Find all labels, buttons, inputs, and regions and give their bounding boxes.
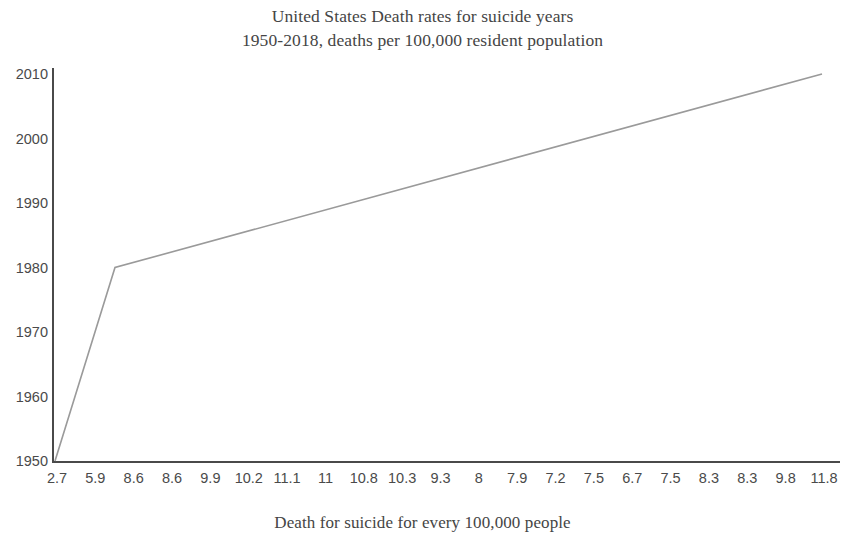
y-axis-tick-1980: 1980 [4, 260, 48, 276]
x-axis-tick-18: 8.3 [737, 470, 757, 486]
x-axis-tick-16: 7.5 [661, 470, 681, 486]
x-axis-tick-5: 10.2 [235, 470, 263, 486]
chart-title-line-2: 1950-2018, deaths per 100,000 resident p… [0, 28, 845, 52]
y-axis-line [52, 68, 54, 462]
chart-container: United States Death rates for suicide ye… [0, 0, 845, 543]
x-axis-tick-0: 2.7 [47, 470, 67, 486]
series-polyline [55, 74, 822, 461]
x-axis-tick-13: 7.2 [545, 470, 565, 486]
x-axis-tick-10: 9.3 [430, 470, 450, 486]
x-axis-tick-14: 7.5 [584, 470, 604, 486]
x-axis-title: Death for suicide for every 100,000 peop… [0, 513, 845, 533]
x-axis-tick-4: 9.9 [200, 470, 220, 486]
x-axis-tick-20: 11.8 [810, 470, 837, 486]
y-axis-tick-labels: 2010200019901980197019601950 [0, 0, 48, 543]
x-axis-tick-8: 10.8 [350, 470, 378, 486]
x-axis-tick-15: 6.7 [622, 470, 642, 486]
y-axis-tick-1970: 1970 [4, 324, 48, 340]
y-axis-tick-2010: 2010 [4, 66, 48, 82]
x-axis-tick-12: 7.9 [507, 470, 527, 486]
chart-title-line-1: United States Death rates for suicide ye… [272, 6, 574, 26]
x-axis-tick-labels: 2.75.98.68.69.910.211.11110.810.39.387.9… [52, 470, 841, 492]
x-axis-tick-9: 10.3 [388, 470, 416, 486]
y-axis-tick-1950: 1950 [4, 453, 48, 469]
y-axis-tick-1960: 1960 [4, 389, 48, 405]
x-axis-tick-11: 8 [475, 470, 483, 486]
chart-title: United States Death rates for suicide ye… [0, 4, 845, 52]
x-axis-tick-6: 11.1 [274, 470, 301, 486]
x-axis-tick-1: 5.9 [85, 470, 105, 486]
y-axis-tick-1990: 1990 [4, 195, 48, 211]
x-axis-tick-7: 11 [318, 470, 333, 486]
x-axis-tick-19: 9.8 [776, 470, 796, 486]
x-axis-tick-3: 8.6 [162, 470, 182, 486]
x-axis-line [52, 461, 840, 463]
y-axis-tick-2000: 2000 [4, 131, 48, 147]
x-axis-tick-17: 8.3 [699, 470, 719, 486]
x-axis-tick-2: 8.6 [124, 470, 144, 486]
